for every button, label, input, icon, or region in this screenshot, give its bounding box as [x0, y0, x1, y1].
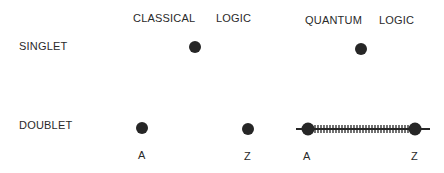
classical-singlet-dot: [189, 41, 201, 53]
classical-label-a: A: [138, 149, 146, 161]
entanglement-bond: [296, 122, 430, 136]
row-label-singlet: SINGLET: [19, 40, 67, 52]
header-classical: CLASSICAL: [133, 12, 195, 24]
quantum-doublet-dot-a: [302, 123, 315, 136]
header-quantum: QUANTUM: [305, 14, 362, 26]
quantum-doublet-dot-z: [409, 123, 422, 136]
header-quantum-logic: LOGIC: [379, 14, 414, 26]
quantum-singlet-dot: [355, 43, 367, 55]
row-label-doublet: DOUBLET: [19, 119, 72, 131]
quantum-label-z: Z: [411, 150, 418, 162]
classical-doublet-dot-a: [136, 122, 148, 134]
quantum-label-a: A: [303, 150, 311, 162]
classical-label-z: Z: [244, 150, 251, 162]
header-classical-logic: LOGIC: [216, 12, 251, 24]
classical-doublet-dot-z: [242, 123, 254, 135]
